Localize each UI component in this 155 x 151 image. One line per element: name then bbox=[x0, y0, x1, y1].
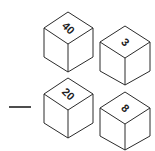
cube-diagram: 40 3 20 8 bbox=[0, 0, 155, 151]
cube-8: 8 bbox=[100, 92, 150, 150]
cube-3: 3 bbox=[100, 26, 150, 85]
cube-20: 20 bbox=[44, 78, 93, 138]
cube-40: 40 bbox=[44, 12, 93, 72]
